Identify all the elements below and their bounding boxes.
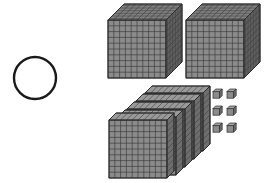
unit-cube (213, 106, 222, 115)
unit-cube (227, 89, 236, 98)
thousand-cubes-group (108, 4, 260, 78)
blocks-illustration (0, 0, 275, 183)
illustration-canvas: Base-ten blocks place value model An emp… (0, 0, 275, 183)
unit-cube (213, 123, 222, 132)
thousand-cube (108, 4, 182, 78)
hundred-flat (109, 113, 174, 178)
unit-cubes-group (213, 89, 236, 132)
unit-cube (227, 123, 236, 132)
unit-cube (213, 89, 222, 98)
thousand-cube (186, 4, 260, 78)
unit-cube (227, 106, 236, 115)
base-ten-blocks-svg (0, 0, 275, 183)
hundred-flats-group (109, 86, 210, 178)
answer-circle[interactable] (14, 57, 56, 99)
